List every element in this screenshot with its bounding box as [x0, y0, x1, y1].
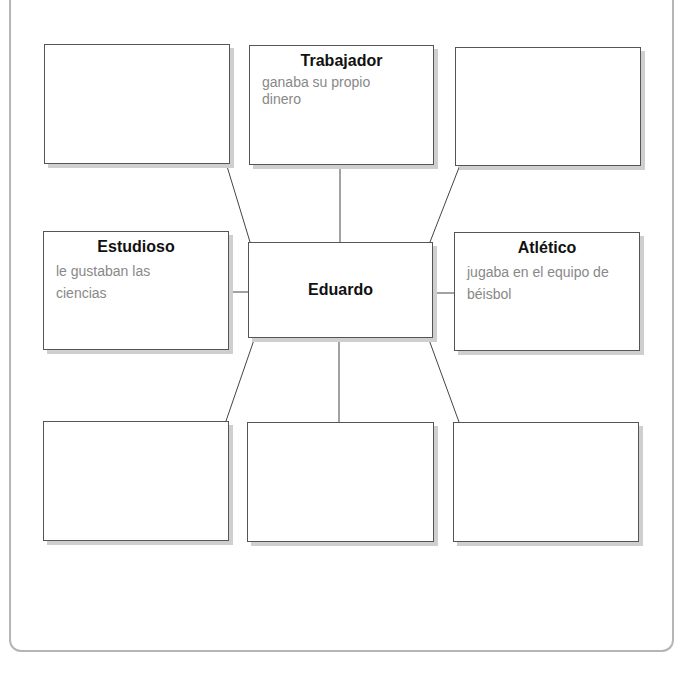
- node-center: Eduardo: [248, 242, 433, 338]
- node-description: le gustaban las ciencias: [44, 260, 228, 304]
- node-description: ganaba su propio dinero: [250, 74, 433, 108]
- node-middle-right: Atlético jugaba en el equipo de béisbol: [454, 232, 640, 351]
- node-title: Atlético: [455, 239, 639, 257]
- node-bottom-right: [453, 422, 639, 542]
- connector-top-right: [430, 165, 460, 242]
- node-description: jugaba en el equipo de béisbol: [455, 261, 639, 305]
- node-top-center: Trabajador ganaba su propio dinero: [249, 45, 434, 165]
- node-bottom-center: [247, 422, 434, 542]
- node-bottom-left: [43, 421, 229, 541]
- node-top-right: [455, 47, 641, 166]
- connector-top-left: [226, 163, 250, 242]
- node-title: Estudioso: [44, 238, 228, 256]
- center-title: Eduardo: [249, 281, 432, 299]
- node-title: Trabajador: [250, 52, 433, 70]
- node-top-left: [44, 44, 230, 164]
- node-middle-left: Estudioso le gustaban las ciencias: [43, 231, 229, 350]
- connector-bottom-left: [226, 337, 255, 421]
